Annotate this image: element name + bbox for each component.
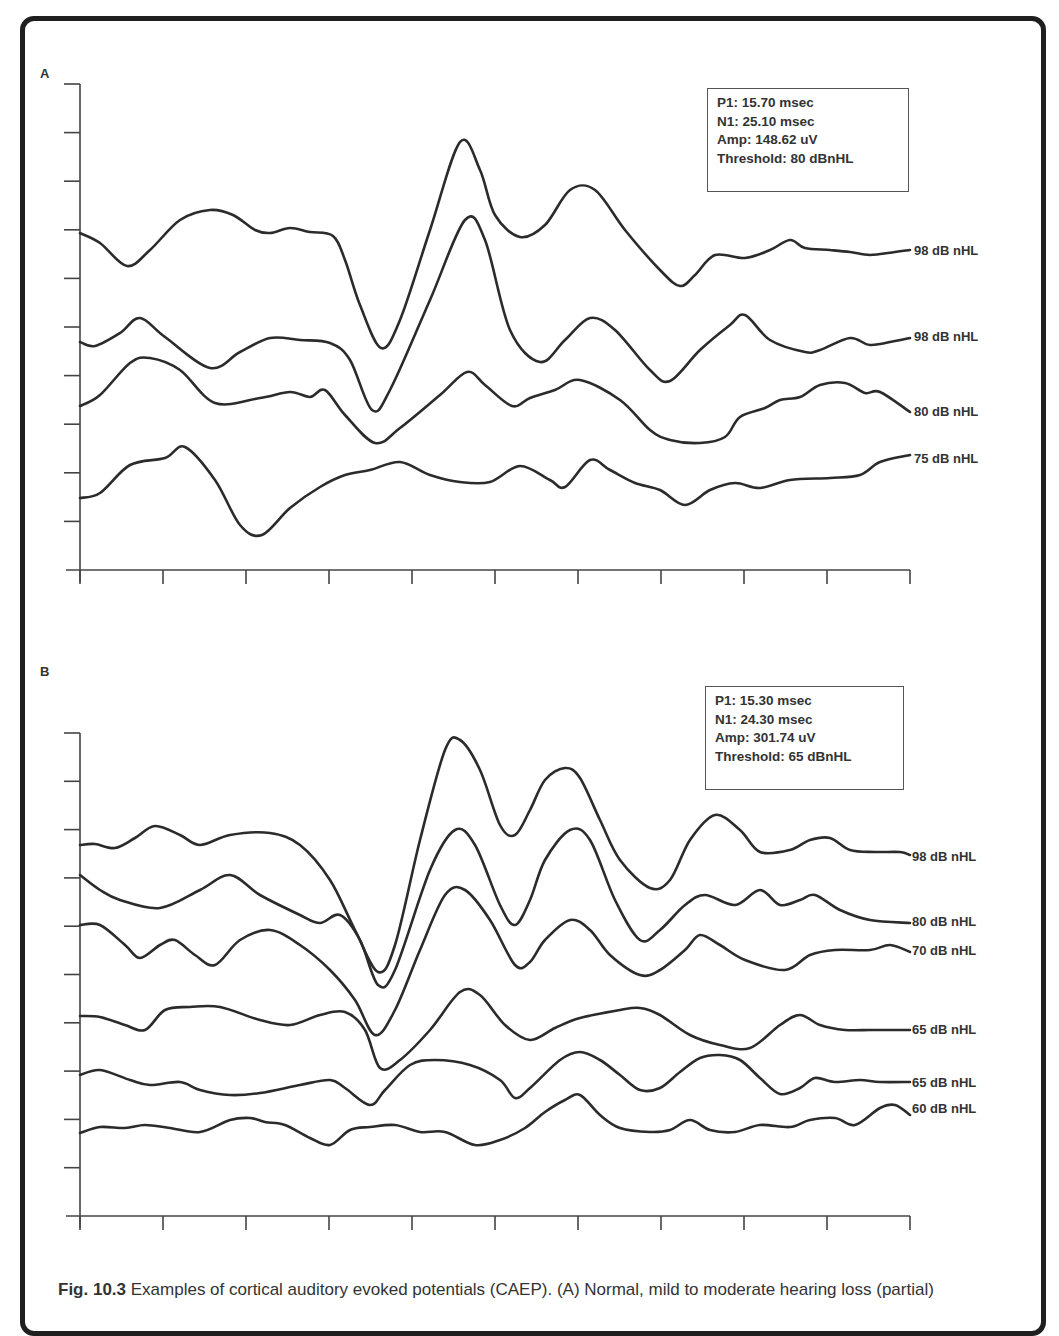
level-label-a-3: 80 dB nHL bbox=[914, 404, 978, 419]
threshold: Threshold: 80 dBnHL bbox=[717, 150, 899, 169]
panel-b-traces bbox=[80, 737, 910, 1145]
waveform-trace bbox=[80, 1052, 910, 1105]
level-label-b-5: 65 dB nHL bbox=[912, 1075, 976, 1090]
threshold: Threshold: 65 dBnHL bbox=[715, 748, 894, 767]
amplitude: Amp: 148.62 uV bbox=[717, 131, 899, 150]
figure-caption: Fig. 10.3 Examples of cortical auditory … bbox=[58, 1280, 934, 1300]
p1-latency: P1: 15.70 msec bbox=[717, 94, 899, 113]
amplitude: Amp: 301.74 uV bbox=[715, 729, 894, 748]
level-label-a-4: 75 dB nHL bbox=[914, 451, 978, 466]
level-label-a-1: 98 dB nHL bbox=[914, 243, 978, 258]
panel-a-traces bbox=[80, 140, 910, 536]
panel-a-info-box: P1: 15.70 msec N1: 25.10 msec Amp: 148.6… bbox=[707, 88, 909, 192]
caption-figure-number: Fig. 10.3 bbox=[58, 1280, 126, 1299]
waveform-trace bbox=[80, 357, 910, 443]
waveform-trace bbox=[80, 446, 910, 536]
panel-b-info-box: P1: 15.30 msec N1: 24.30 msec Amp: 301.7… bbox=[705, 686, 904, 790]
waveform-trace bbox=[80, 989, 910, 1070]
level-label-b-3: 70 dB nHL bbox=[912, 943, 976, 958]
panel-b-axes bbox=[64, 733, 910, 1230]
waveform-trace bbox=[80, 1094, 910, 1145]
level-label-b-6: 60 dB nHL bbox=[912, 1101, 976, 1116]
caption-text: Examples of cortical auditory evoked pot… bbox=[126, 1280, 934, 1299]
n1-latency: N1: 25.10 msec bbox=[717, 113, 899, 132]
n1-latency: N1: 24.30 msec bbox=[715, 711, 894, 730]
level-label-b-1: 98 dB nHL bbox=[912, 849, 976, 864]
level-label-b-2: 80 dB nHL bbox=[912, 914, 976, 929]
waveform-trace bbox=[80, 216, 910, 411]
level-label-a-2: 98 dB nHL bbox=[914, 329, 978, 344]
level-label-b-4: 65 dB nHL bbox=[912, 1022, 976, 1037]
p1-latency: P1: 15.30 msec bbox=[715, 692, 894, 711]
